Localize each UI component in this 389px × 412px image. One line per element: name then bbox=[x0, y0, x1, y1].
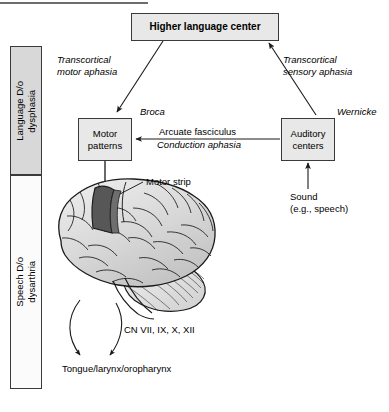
sidebar-item-speech-disorder-label: Speech D/o dysarthria bbox=[14, 257, 38, 307]
label-transcortical-motor-aphasia: Transcortical motor aphasia bbox=[57, 54, 117, 77]
label-transcortical-sensory-aphasia: Transcortical sensory aphasia bbox=[283, 54, 352, 77]
brain-illustration bbox=[59, 179, 215, 319]
node-higher-language-center: Higher language center bbox=[131, 13, 279, 41]
motor-strip-region bbox=[92, 186, 121, 233]
label-wernicke: Wernicke bbox=[337, 106, 376, 118]
connector-hlc-to-motor-patterns bbox=[117, 41, 163, 112]
label-arcuate-fasciculus: Arcuate fasciculus bbox=[159, 126, 236, 138]
node-motor-patterns: Motor patterns bbox=[78, 118, 132, 161]
node-higher-language-center-label: Higher language center bbox=[149, 21, 260, 33]
label-effectors: Tongue/larynx/oropharynx bbox=[62, 363, 171, 375]
figure-canvas: Language D/o dysphasia Speech D/o dysart… bbox=[0, 0, 389, 412]
label-sound: Sound (e.g., speech) bbox=[290, 191, 348, 214]
sidebar-item-speech-disorder: Speech D/o dysarthria bbox=[10, 175, 42, 389]
node-auditory-centers-label: Auditory centers bbox=[291, 128, 326, 152]
label-cranial-nerves: CN VII, IX, X, XII bbox=[124, 324, 195, 336]
cerebrum bbox=[59, 179, 215, 287]
label-broca: Broca bbox=[140, 106, 165, 118]
node-motor-patterns-label: Motor patterns bbox=[88, 128, 122, 152]
label-motor-strip: Motor strip bbox=[146, 176, 191, 188]
connector-cranial-nerve-outputs bbox=[70, 300, 122, 355]
sidebar-item-language-disorder: Language D/o dysphasia bbox=[10, 46, 42, 175]
sidebar-item-language-disorder-label: Language D/o dysphasia bbox=[14, 81, 38, 141]
node-auditory-centers: Auditory centers bbox=[281, 118, 335, 161]
label-conduction-aphasia: Conduction aphasia bbox=[157, 139, 241, 151]
